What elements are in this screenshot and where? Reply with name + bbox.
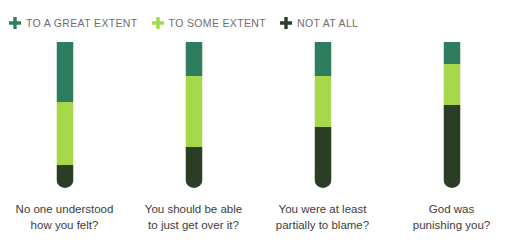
bar-segment[interactable]: 42% [314,127,331,188]
bar-segment[interactable]: 23% [314,42,331,76]
bar-zone: 15%28%57% [387,40,516,190]
bar-segment[interactable]: 57% [443,105,460,188]
bar-segment[interactable]: 15% [443,42,460,64]
bar-segment[interactable]: 16% [56,165,73,188]
legend-item-great-extent: TO A GREAT EXTENT [9,17,138,29]
bar-segment[interactable]: 41% [56,42,73,102]
legend-label-great-extent: TO A GREAT EXTENT [26,18,138,29]
legend-item-not-at-all: NOT AT ALL [280,17,358,29]
plus-icon [9,17,21,29]
bar-segment[interactable]: 23% [185,42,202,76]
bar-zone: 41%43%16% [0,40,129,190]
bar-segment[interactable]: 28% [443,64,460,105]
bar-caption: No one understood how you felt? [16,202,114,233]
bar-caption: God was punishing you? [413,202,490,233]
bar-segment[interactable]: 28% [185,147,202,188]
bar-segment[interactable]: 35% [314,76,331,127]
bar-segment[interactable]: 43% [56,102,73,165]
chart-legend: TO A GREAT EXTENT TO SOME EXTENT NOT AT … [9,17,358,29]
stacked-bar[interactable]: 15%28%57% [443,42,460,188]
bar-column: 41%43%16%No one understood how you felt? [0,40,129,247]
bar-caption: You should be able to just get over it? [145,202,242,233]
plus-icon [280,17,292,29]
bar-caption: You were at least partially to blame? [276,202,369,233]
bar-zone: 23%48%28% [129,40,258,190]
stacked-bar-chart: 41%43%16%No one understood how you felt?… [0,40,516,247]
legend-label-not-at-all: NOT AT ALL [297,18,358,29]
bar-column: 15%28%57%God was punishing you? [387,40,516,247]
bar-column: 23%48%28%You should be able to just get … [129,40,258,247]
bar-column: 23%35%42%You were at least partially to … [258,40,387,247]
bar-zone: 23%35%42% [258,40,387,190]
stacked-bar[interactable]: 23%35%42% [314,42,331,188]
legend-label-some-extent: TO SOME EXTENT [169,18,266,29]
legend-item-some-extent: TO SOME EXTENT [152,17,266,29]
plus-icon [152,17,164,29]
bar-segment[interactable]: 48% [185,76,202,147]
stacked-bar[interactable]: 41%43%16% [56,42,73,188]
stacked-bar[interactable]: 23%48%28% [185,42,202,188]
